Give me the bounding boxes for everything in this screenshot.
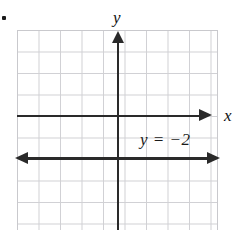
equation-annotation: y = −2	[140, 130, 191, 150]
x-axis-arrow-icon	[199, 109, 212, 121]
grid-border-left	[17, 30, 18, 230]
x-axis-label: x	[224, 107, 232, 124]
grid-border-right	[217, 30, 218, 230]
problem-bullet-marker	[2, 16, 6, 20]
y-axis	[117, 40, 119, 230]
y-axis-label: y	[113, 9, 121, 26]
y-axis-arrow-icon	[112, 31, 124, 43]
plotted-line-y-equals-negative-2	[25, 157, 211, 160]
x-axis	[17, 115, 203, 117]
plot-line-arrow-right-icon	[207, 152, 220, 164]
graph-figure: y x y = −2	[0, 0, 237, 230]
plot-line-arrow-left-icon	[15, 152, 28, 164]
